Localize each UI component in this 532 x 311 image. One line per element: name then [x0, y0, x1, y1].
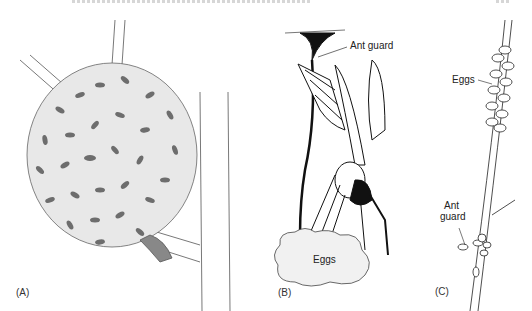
annotation-c-eggs: Eggs: [452, 74, 475, 85]
panel-label-b: (B): [278, 287, 291, 298]
panel-label-c: (C): [435, 286, 449, 297]
panel-b-drawing: [274, 30, 388, 286]
annotation-b-eggs: Eggs: [313, 254, 336, 265]
panel-c-drawing: [458, 20, 515, 311]
panel-label-a: (A): [16, 287, 29, 298]
annotation-b-ant-guard: Ant guard: [350, 40, 393, 51]
illustration: [0, 0, 532, 311]
annotation-c-ant-guard-line2: guard: [440, 211, 466, 222]
annotation-c-ant-guard-line1: Ant: [444, 200, 459, 211]
panel-a-drawing: [20, 20, 230, 311]
